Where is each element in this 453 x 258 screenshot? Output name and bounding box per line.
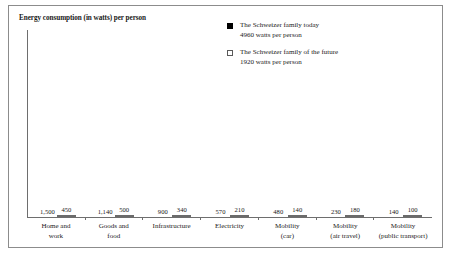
- bar-future: [57, 215, 76, 217]
- legend-swatch-filled-square-icon: [227, 23, 233, 29]
- bar-value-label: 140: [292, 207, 302, 214]
- bar-value-label: 210: [235, 207, 245, 214]
- x-axis-label-line: Electricity: [202, 222, 258, 232]
- bar-value-label: 100: [408, 207, 418, 214]
- bar-group: 1,500450: [28, 30, 86, 217]
- x-axis-label-line: (air travel): [317, 232, 373, 242]
- x-axis-tick: [85, 217, 86, 220]
- x-axis-label: Electricity: [201, 222, 259, 241]
- bar-column: 180: [345, 215, 364, 217]
- bar-pair: 1,140500: [86, 30, 144, 217]
- x-axis-label-line: (public transport): [375, 232, 431, 242]
- bar-value-label: 450: [61, 207, 71, 214]
- x-axis-label: Mobility(public transport): [374, 222, 432, 241]
- legend-label-today: The Schweizer family today: [240, 21, 319, 29]
- x-axis-label-line: work: [28, 232, 84, 242]
- x-axis-label-line: (car): [259, 232, 315, 242]
- plot-area: 1,5004501,140500900340570210480140230180…: [27, 30, 432, 218]
- bar-value-label: 180: [350, 207, 360, 214]
- x-axis-label: Home andwork: [27, 222, 85, 241]
- bar-group: 1,140500: [86, 30, 144, 217]
- bar-groups: 1,5004501,140500900340570210480140230180…: [28, 30, 432, 217]
- bar-group: 480140: [259, 30, 317, 217]
- bar-pair: 230180: [317, 30, 375, 217]
- bar-value-label: 1,140: [98, 209, 113, 216]
- bar-value-label: 570: [216, 209, 226, 216]
- bar-future: [288, 215, 307, 217]
- x-axis-labels: Home andworkGoods andfoodInfrastructureE…: [27, 222, 432, 241]
- x-axis-label-line: Mobility: [317, 222, 373, 232]
- bar-pair: 1,500450: [28, 30, 86, 217]
- bar-group: 900340: [143, 30, 201, 217]
- bar-value-label: 480: [273, 209, 283, 216]
- bar-pair: 570210: [201, 30, 259, 217]
- bar-future: [403, 215, 422, 217]
- x-axis-label: Mobility(air travel): [316, 222, 374, 241]
- x-axis-label-line: Goods and: [86, 222, 142, 232]
- x-axis-tick: [258, 217, 259, 220]
- bar-value-label: 500: [119, 207, 129, 214]
- bar-column: 500: [115, 215, 134, 217]
- bar-future: [345, 215, 364, 217]
- chart-figure: Energy consumption (in watts) per person…: [8, 5, 443, 248]
- bar-column: 340: [172, 215, 191, 217]
- x-axis-tick: [316, 217, 317, 220]
- x-axis-label: Mobility(car): [258, 222, 316, 241]
- bar-column: 100: [403, 215, 422, 217]
- chart-title: Energy consumption (in watts) per person: [19, 14, 146, 22]
- x-axis-label-line: food: [86, 232, 142, 242]
- bar-group: 230180: [317, 30, 375, 217]
- x-axis-label-line: Infrastructure: [144, 222, 200, 232]
- x-axis-label: Infrastructure: [143, 222, 201, 241]
- x-axis-label-line: Mobility: [259, 222, 315, 232]
- bar-value-label: 900: [158, 209, 168, 216]
- bar-future: [115, 215, 134, 217]
- bar-column: 140: [288, 215, 307, 217]
- bar-value-label: 1,500: [40, 209, 55, 216]
- bar-future: [230, 215, 249, 217]
- x-axis-label-line: Home and: [28, 222, 84, 232]
- bar-pair: 480140: [259, 30, 317, 217]
- bar-column: 210: [230, 215, 249, 217]
- bar-pair: 140100: [374, 30, 432, 217]
- bar-future: [172, 215, 191, 217]
- bar-column: 450: [57, 215, 76, 217]
- bar-group: 140100: [374, 30, 432, 217]
- bar-pair: 900340: [143, 30, 201, 217]
- bar-value-label: 140: [389, 209, 399, 216]
- bar-group: 570210: [201, 30, 259, 217]
- x-axis-label-line: Mobility: [375, 222, 431, 232]
- x-axis-label: Goods andfood: [85, 222, 143, 241]
- bar-value-label: 230: [331, 209, 341, 216]
- x-axis-tick: [373, 217, 374, 220]
- x-axis-tick: [142, 217, 143, 220]
- bar-value-label: 340: [177, 207, 187, 214]
- x-axis-tick: [200, 217, 201, 220]
